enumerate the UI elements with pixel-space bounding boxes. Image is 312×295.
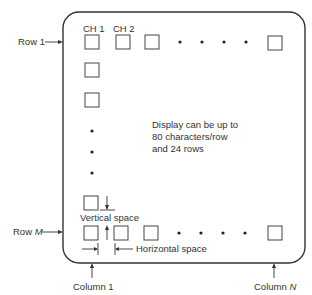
row-m-cells: [84, 226, 282, 240]
cell-ch1: [85, 35, 99, 49]
column-arrows: [90, 263, 276, 278]
row-1-ellipsis: [178, 40, 247, 43]
svg-text:80 characters/row: 80 characters/row: [152, 131, 228, 142]
display-diagram: CH 1 CH 2 Row 1 Row M Column 1 Column N …: [0, 0, 312, 295]
row-1-label: Row 1: [18, 36, 45, 47]
row-m-ellipsis: [177, 231, 246, 234]
column-1-label: Column 1: [73, 281, 114, 292]
row-arrows: [42, 40, 63, 234]
cell-ch3: [145, 35, 159, 49]
svg-text:and 24 rows: and 24 rows: [152, 143, 204, 154]
horizontal-space-marker: [82, 243, 133, 255]
cell-chN: [268, 36, 282, 50]
row-1-cells: [85, 35, 282, 50]
column-1-cells: [84, 63, 99, 210]
svg-text:Display can be up to: Display can be up to: [152, 119, 238, 130]
display-capacity-note: Display can be up to 80 characters/row a…: [152, 119, 238, 154]
column-1-ellipsis: [90, 129, 93, 174]
horizontal-space-label: Horizontal space: [136, 243, 207, 254]
row-m-label: Row M: [13, 226, 43, 237]
vertical-space-label: Vertical space: [80, 212, 139, 223]
ch1-label: CH 1: [83, 23, 105, 34]
ch2-label: CH 2: [113, 23, 135, 34]
cell-ch2: [116, 35, 130, 49]
column-n-label: Column N: [254, 281, 296, 292]
